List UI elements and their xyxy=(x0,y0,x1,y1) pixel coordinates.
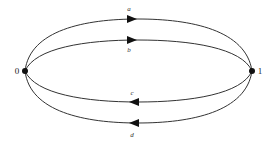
arrow-right-icon xyxy=(127,36,137,44)
edge-label-c: c xyxy=(130,89,134,97)
arrow-right-icon xyxy=(127,15,137,23)
arrow-left-icon xyxy=(129,98,139,106)
edge-label-b: b xyxy=(127,46,131,54)
vertex-label-0: 0 xyxy=(15,66,20,76)
vertex-label-1: 1 xyxy=(258,66,263,76)
edge-c: c xyxy=(25,71,252,106)
edge-label-d: d xyxy=(130,131,134,139)
graph-diagram: a b c d 0 1 xyxy=(0,0,276,143)
edge-label-a: a xyxy=(127,5,131,13)
arrow-left-icon xyxy=(129,119,139,127)
edge-b: b xyxy=(25,36,252,71)
edge-a: a xyxy=(25,5,252,71)
